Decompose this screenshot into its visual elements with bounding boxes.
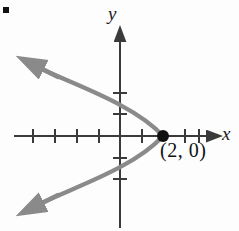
x-axis-label: x [222,124,230,143]
coordinate-plane-svg [0,0,239,231]
parabola-arrow-upper [40,68,58,77]
y-axis-label: y [108,4,116,23]
vertex-coordinate-label: (2, 0) [160,140,206,160]
parabola-arrow-lower [40,195,58,204]
parabola-upper-branch [44,70,163,136]
parabola-lower-branch [44,136,163,202]
parabola-figure: y x (2, 0) [0,0,239,231]
y-axis [113,40,127,228]
